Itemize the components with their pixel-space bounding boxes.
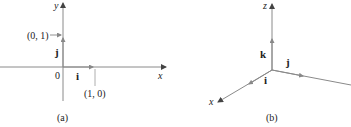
j-vector-b <box>272 70 303 76</box>
panel-a: y x (0, 1) j 0 i (1, 0) (a) <box>0 0 166 124</box>
point-1-0-label: (1, 0) <box>84 88 106 100</box>
unit-vectors-diagram: y x (0, 1) j 0 i (1, 0) (a) z k j i x (b… <box>0 0 351 127</box>
y-axis-label-a: y <box>53 0 59 11</box>
j-label-b: j <box>285 56 290 68</box>
j-label-a: j <box>54 46 59 58</box>
x-axis-label-b: x <box>208 96 214 107</box>
point-0-1-label: (0, 1) <box>27 30 49 42</box>
i-vector-b <box>249 70 272 84</box>
caption-b: (b) <box>266 112 278 124</box>
origin-label-a: 0 <box>55 70 60 81</box>
caption-a: (a) <box>57 112 68 124</box>
z-axis-label-b: z <box>262 0 267 11</box>
x-axis-label-a: x <box>157 70 163 81</box>
k-label-b: k <box>260 48 267 60</box>
i-label-b: i <box>264 74 267 86</box>
i-label-a: i <box>76 70 79 82</box>
panel-b: z k j i x (b) <box>208 0 351 124</box>
